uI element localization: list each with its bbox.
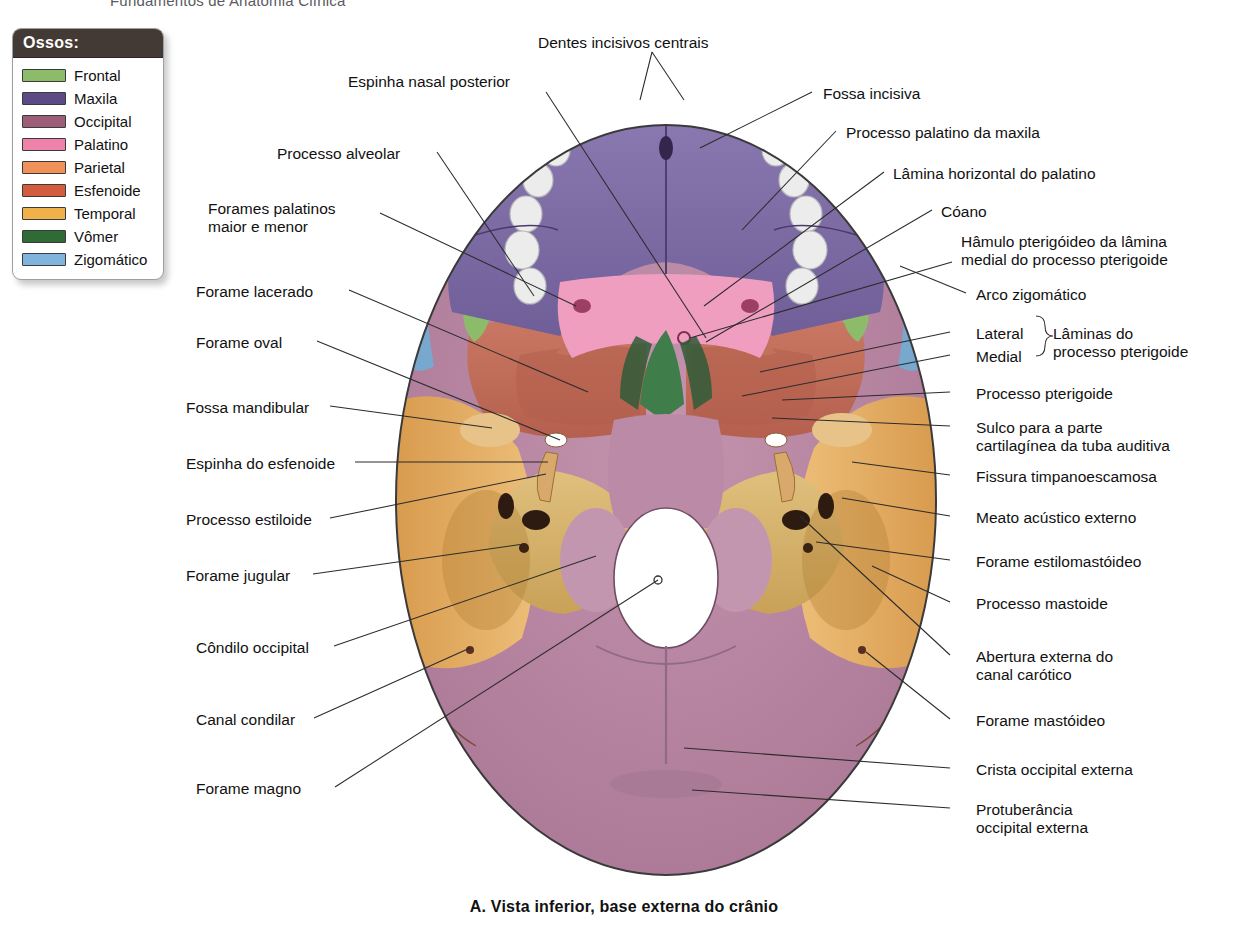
label-espinha-do-esfenoide: Espinha do esfenoide [186,455,335,473]
mandibular-fossa-left [460,413,520,447]
foramen-ovale-right [765,433,787,447]
foramen-ovale-left [545,433,567,447]
figure-caption: A. Vista inferior, base externa do crâni… [0,898,1248,916]
jugular-foramen-left [522,510,550,530]
mastoid-foramen-left [466,646,474,654]
figure-page: Fundamentos de Anatomia Clínica Ossos: F… [0,0,1248,932]
foramen-magnum [614,508,718,648]
label-canal-condilar: Canal condilar [196,711,295,729]
stylomastoid-foramen-right [803,543,813,553]
label-processo-palatino-maxila: Processo palatino da maxila [846,124,1040,142]
label-condilo-occipital: Côndilo occipital [196,639,309,657]
label-forame-estilomastoideo: Forame estilomastóideo [976,553,1141,571]
label-dentes-incisivos-centrais: Dentes incisivos centrais [538,34,709,52]
jugular-foramen-right [782,510,810,530]
label-meato-acustico-externo: Meato acústico externo [976,509,1136,527]
label-arco-zigomatico: Arco zigomático [976,286,1086,304]
stylomastoid-foramen-left [519,543,529,553]
label-forame-oval: Forame oval [196,334,282,352]
label-lamina-horizontal-palatino: Lâmina horizontal do palatino [893,165,1096,183]
label-crista-occipital-externa: Crista occipital externa [976,761,1133,779]
carotid-canal-left [498,493,514,519]
mastoid-shadow-left [442,490,530,630]
label-forame-lacerado: Forame lacerado [196,283,313,301]
foramen-magnum-marker [654,576,662,584]
label-fossa-mandibular: Fossa mandibular [186,399,309,417]
label-processo-alveolar: Processo alveolar [277,145,400,163]
label-medial: Medial [976,348,1022,366]
label-forames-palatinos: Forames palatinos maior e menor [208,200,336,235]
label-abertura-canal-carotico: Abertura externa do canal carótico [976,648,1113,683]
label-fossa-incisiva: Fossa incisiva [823,85,920,103]
label-lateral: Lateral [976,325,1023,343]
label-forame-mastoideo: Forame mastóideo [976,712,1105,730]
label-espinha-nasal-posterior: Espinha nasal posterior [348,73,510,91]
label-forame-magno: Forame magno [196,780,301,798]
label-coano: Cóano [941,203,987,221]
incisive-fossa [659,136,673,160]
greater-palatine-foramen-left [573,299,591,313]
label-protuberancia-occipital: Protuberância occipital externa [976,801,1088,836]
label-processo-pterigoide: Processo pterigoide [976,385,1113,403]
mastoid-foramen-right [858,646,866,654]
external-occipital-protuberance [610,770,722,798]
greater-palatine-foramen-right [741,299,759,313]
label-processo-estiloide: Processo estiloide [186,511,312,529]
carotid-canal-right [818,493,834,519]
mastoid-shadow-right [802,490,890,630]
label-laminas-processo-pterigoide: Lâminas do processo pterigoide [1053,325,1188,360]
label-fissura-timpanoescamosa: Fissura timpanoescamosa [976,468,1157,486]
label-forame-jugular: Forame jugular [186,567,290,585]
label-hamulo-pterigoideo: Hâmulo pterigóideo da lâmina medial do p… [961,233,1168,268]
mandibular-fossa-right [812,413,872,447]
label-processo-mastoide: Processo mastoide [976,595,1108,613]
label-sulco-tuba-auditiva: Sulco para a parte cartilagínea da tuba … [976,419,1170,454]
